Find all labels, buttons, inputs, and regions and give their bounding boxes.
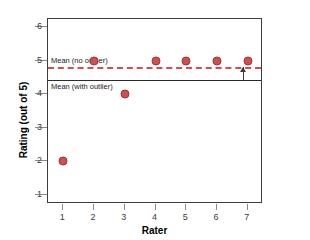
y-axis-title: Rating (out of 5): [18, 35, 29, 205]
data-point: [212, 56, 221, 65]
data-point: [151, 56, 160, 65]
y-tick-label-2: 2: [37, 155, 42, 165]
x-tick-4: [155, 204, 156, 210]
x-tick-label-1: 1: [60, 212, 65, 222]
x-tick-label-4: 4: [152, 212, 157, 222]
y-tick-label-1: 1: [37, 189, 42, 199]
data-point: [243, 56, 252, 65]
mean-no-outlier-label: Mean (no outlier): [51, 56, 108, 65]
x-tick-label-5: 5: [183, 212, 188, 222]
data-point: [59, 157, 68, 166]
difference-arrow-head: [240, 67, 246, 72]
x-axis-title: Rater: [47, 225, 262, 236]
x-tick-label-3: 3: [121, 212, 126, 222]
mean-with-outlier-label: Mean (with outlier): [51, 82, 113, 91]
data-point: [120, 90, 129, 99]
x-tick-3: [124, 204, 125, 210]
mean-with-outlier-line: [48, 80, 261, 81]
x-tick-7: [247, 204, 248, 210]
data-point: [90, 56, 99, 65]
x-tick-1: [62, 204, 63, 210]
x-tick-label-7: 7: [244, 212, 249, 222]
x-tick-6: [216, 204, 217, 210]
y-tick-label-3: 3: [37, 122, 42, 132]
y-tick-label-5: 5: [37, 55, 42, 65]
mean-no-outlier-line: [48, 67, 261, 69]
x-tick-2: [93, 204, 94, 210]
x-tick-label-2: 2: [91, 212, 96, 222]
y-tick-label-6: 6: [37, 21, 42, 31]
plot-area: Mean (no outlier) Mean (with outlier): [47, 18, 262, 203]
chart-figure: Rating (out of 5) Rater 123456 1234567 M…: [0, 0, 310, 240]
y-tick-label-4: 4: [37, 88, 42, 98]
data-point: [182, 56, 191, 65]
x-tick-label-6: 6: [213, 212, 218, 222]
x-tick-5: [185, 204, 186, 210]
